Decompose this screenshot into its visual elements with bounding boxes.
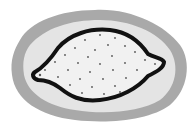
lemon-cell-diagram <box>0 0 195 129</box>
